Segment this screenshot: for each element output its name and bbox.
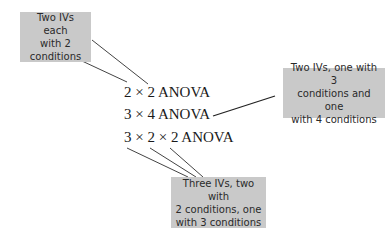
leader-line-1a: [92, 40, 148, 84]
leader-line-1b: [82, 61, 127, 82]
design-3x4-anova: 3 × 4 ANOVA: [124, 106, 210, 123]
callout-3x2x2: Three IVs, two with 2 conditions, one wi…: [171, 177, 266, 228]
callout-3x4-line-3: with 4 conditions: [287, 113, 381, 126]
callout-3x2x2-line-1: Three IVs, two with: [175, 177, 262, 203]
callout-3x2x2-line-2: 2 conditions, one: [175, 203, 262, 216]
callout-3x4-line-1: Two IVs, one with 3: [287, 61, 381, 87]
leader-line-2: [213, 96, 275, 116]
callout-2x2-line-1: Two IVs each: [24, 11, 87, 37]
callout-2x2-line-3: conditions: [24, 50, 87, 63]
callout-2x2: Two IVs each with 2 conditions: [20, 12, 91, 62]
design-3x2x2-anova: 3 × 2 × 2 ANOVA: [124, 129, 234, 146]
callout-3x4-line-2: conditions and one: [287, 87, 381, 113]
leader-line-3c: [170, 148, 203, 177]
callout-3x2x2-line-3: with 3 conditions: [175, 216, 262, 229]
callout-2x2-line-2: with 2: [24, 37, 87, 50]
design-2x2-anova: 2 × 2 ANOVA: [124, 84, 210, 101]
callout-3x4: Two IVs, one with 3 conditions and one w…: [283, 68, 385, 118]
